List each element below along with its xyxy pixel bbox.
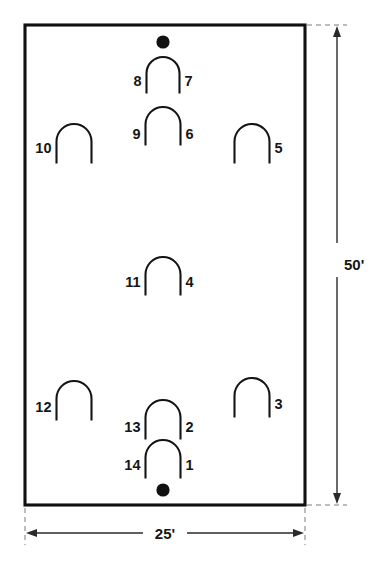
height-dimension-label: 50' bbox=[344, 256, 364, 273]
station-label-3: 3 bbox=[275, 396, 283, 412]
arrowhead-up bbox=[333, 26, 341, 37]
bottom-center-dot bbox=[156, 483, 169, 496]
station-label-6: 6 bbox=[186, 126, 194, 142]
station-label-7: 7 bbox=[185, 73, 193, 89]
station-label-14: 14 bbox=[124, 457, 140, 473]
station-label-11: 11 bbox=[125, 274, 140, 290]
station-label-10: 10 bbox=[35, 140, 51, 156]
arrowhead-left bbox=[26, 529, 37, 537]
top-center-dot bbox=[156, 35, 169, 48]
station-label-2: 2 bbox=[186, 419, 194, 435]
width-dimension-label: 25' bbox=[155, 525, 175, 542]
court-boundary-rectangle bbox=[25, 25, 305, 505]
arrowhead-down bbox=[333, 493, 341, 504]
station-label-1: 1 bbox=[186, 457, 194, 473]
station-label-13: 13 bbox=[124, 419, 140, 435]
station-label-4: 4 bbox=[186, 274, 194, 290]
court-layout-diagram: the mark of the object appears to havebe… bbox=[0, 0, 370, 564]
station-label-5: 5 bbox=[275, 140, 283, 156]
arrowhead-right bbox=[293, 529, 304, 537]
station-label-8: 8 bbox=[133, 73, 141, 89]
diagram-canvas: 8796105114123132141 50' 25' bbox=[0, 0, 370, 564]
station-label-12: 12 bbox=[35, 399, 51, 415]
station-label-9: 9 bbox=[132, 126, 140, 142]
